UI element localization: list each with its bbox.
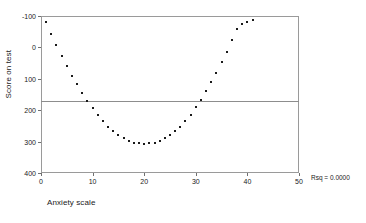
data-point [221,61,223,63]
x-tick-mark [247,173,248,176]
x-tick-label: 50 [295,178,303,185]
data-point [55,44,57,46]
data-point [92,107,94,109]
x-tick-mark [299,173,300,176]
x-tick-mark [41,173,42,176]
x-tick-label: 0 [39,178,43,185]
data-point [97,114,99,116]
y-tick-label: 100 [24,75,36,82]
x-axis-title: Anxiety scale [47,198,95,207]
x-tick-label: 40 [243,178,251,185]
data-point [138,142,140,144]
y-tick-mark [38,47,41,48]
data-point [112,130,114,132]
data-point [246,21,248,23]
y-tick-mark [38,16,41,17]
data-point [174,130,176,132]
data-point [117,134,119,136]
data-point [205,90,207,92]
data-point [159,140,161,142]
data-point [45,21,47,23]
rsq-annotation: Rsq = 0.0000 [311,174,350,181]
data-point [50,33,52,35]
data-point [66,65,68,67]
scatterplot-figure: Score on test 4003002001000-100 01020304… [0,0,366,223]
data-point [210,81,212,83]
x-tick-mark [144,173,145,176]
y-axis-title: Score on test [4,50,18,98]
data-point [123,137,125,139]
data-point [102,120,104,122]
data-point [81,92,83,94]
data-point [154,142,156,144]
x-tick-label: 30 [192,178,200,185]
data-point [231,39,233,41]
data-point [76,83,78,85]
y-tick-label: 200 [24,107,36,114]
y-tick-mark [38,79,41,80]
data-point [195,106,197,108]
x-tick-mark [196,173,197,176]
data-point [179,126,181,128]
x-tick-label: 10 [89,178,97,185]
data-point [226,51,228,53]
data-point [86,100,88,102]
data-point [190,114,192,116]
data-point [184,120,186,122]
data-point [143,143,145,145]
plot-area: 4003002001000-100 01020304050 [41,16,299,173]
data-point [241,23,243,25]
y-tick-label: 400 [24,170,36,177]
y-tick-label: -100 [22,13,36,20]
data-point [133,142,135,144]
data-point [148,142,150,144]
x-tick-mark [93,173,94,176]
y-tick-label: 0 [32,44,36,51]
data-point [236,28,238,30]
data-point [71,75,73,77]
data-point [61,55,63,57]
data-point [107,126,109,128]
x-tick-label: 20 [140,178,148,185]
y-tick-label: 300 [24,138,36,145]
data-point [169,134,171,136]
data-point [215,72,217,74]
data-points-layer [41,16,299,173]
y-tick-mark [38,110,41,111]
data-point [200,99,202,101]
data-point [128,140,130,142]
y-tick-mark [38,142,41,143]
data-point [164,137,166,139]
data-point [252,19,254,21]
